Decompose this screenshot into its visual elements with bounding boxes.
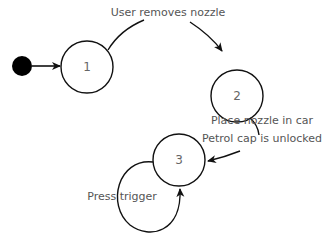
transition-2-to-3-label-line2: Petrol cap is unlocked xyxy=(202,132,322,145)
state-diagram: 1 2 3 User removes nozzle Place nozzle i… xyxy=(0,0,327,243)
transition-1-to-2-arrow xyxy=(190,22,222,51)
transition-3-self-loop-label: Press trigger xyxy=(87,190,157,203)
state-2-label: 2 xyxy=(233,89,241,103)
state-1: 1 xyxy=(61,41,113,93)
transition-2-to-3-arrow xyxy=(208,151,240,161)
state-3: 3 xyxy=(153,134,205,186)
state-1-label: 1 xyxy=(83,60,91,74)
transition-1-to-2 xyxy=(108,20,144,50)
transition-1-to-2-label: User removes nozzle xyxy=(111,6,226,19)
transition-2-to-3-label-line1: Place nozzle in car xyxy=(211,114,314,127)
state-3-label: 3 xyxy=(175,153,183,167)
start-node xyxy=(12,56,32,76)
